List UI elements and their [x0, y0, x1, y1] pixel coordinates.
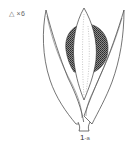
caption-suffix: -a [84, 135, 89, 141]
floret-illustration [0, 0, 126, 144]
center-lemma [73, 8, 96, 100]
figure-caption: 1-a [80, 133, 90, 142]
stalk-base [78, 122, 90, 131]
